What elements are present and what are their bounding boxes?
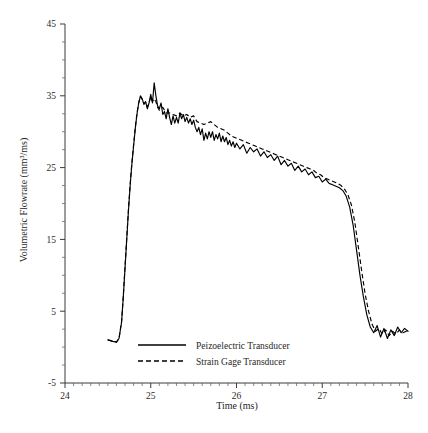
x-tick-label: 25 [146, 391, 156, 401]
y-tick-label: 5 [51, 307, 56, 317]
x-axis-title: Time (ms) [216, 400, 258, 412]
chart-legend[interactable]: Peizoelectric TransducerStrain Gage Tran… [138, 341, 290, 367]
x-tick-label: 27 [318, 391, 328, 401]
axis-ticks [60, 24, 408, 388]
y-tick-label: 45 [47, 19, 57, 29]
y-axis-title: Volumetric Flowrate (mm³/ms) [18, 138, 30, 262]
series-line-1 [108, 83, 408, 342]
chart-figure: -55152535452425262728 Peizoelectric Tran… [0, 0, 428, 433]
series-line-2 [108, 97, 408, 343]
legend-label-2: Strain Gage Transducer [196, 357, 287, 367]
x-tick-label: 24 [60, 391, 70, 401]
y-tick-label: -5 [48, 378, 56, 388]
y-tick-label: 35 [47, 91, 57, 101]
x-tick-label: 28 [403, 391, 413, 401]
y-tick-label: 25 [47, 163, 57, 173]
axes [65, 24, 408, 383]
legend-label-1: Peizoelectric Transducer [196, 341, 290, 351]
chart-plot-area: -55152535452425262728 Peizoelectric Tran… [0, 0, 428, 433]
data-series [108, 83, 408, 342]
y-tick-label: 15 [47, 235, 57, 245]
